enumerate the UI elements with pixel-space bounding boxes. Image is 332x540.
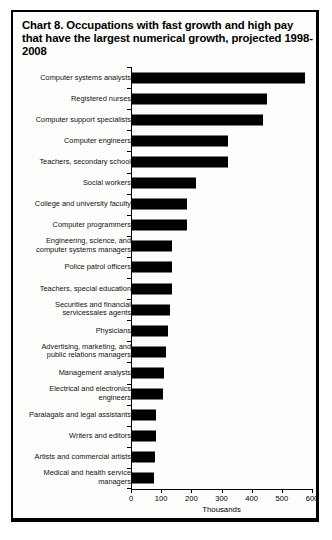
bar — [131, 241, 172, 252]
bar — [131, 473, 154, 484]
chart-title: Chart 8. Occupations with fast growth an… — [22, 19, 314, 59]
x-axis-tick — [131, 489, 132, 493]
category-label: Computer engineers — [15, 137, 131, 146]
plot-area: Computer systems analystsRegistered nurs… — [13, 67, 317, 522]
bar-row: Teachers, special education — [13, 278, 317, 299]
bar — [131, 262, 172, 273]
x-axis-tick-label: 500 — [275, 494, 288, 503]
bar-row: Artists and commercial artists — [13, 447, 317, 468]
bar — [131, 156, 228, 167]
x-axis-tick-label: 600 — [306, 494, 319, 503]
bar — [131, 304, 170, 315]
x-axis-tick — [312, 489, 313, 493]
bar-row: Physicians — [13, 320, 317, 341]
bar — [131, 178, 196, 189]
x-axis-tick — [191, 489, 192, 493]
bar-row: Management analysts — [13, 362, 317, 383]
category-label: College and university faculty — [15, 200, 131, 209]
bar-row: Computer systems analysts — [13, 67, 317, 88]
bar-row: Computer support specialists — [13, 109, 317, 130]
x-axis-tick-label: 400 — [245, 494, 258, 503]
x-axis-tick — [161, 489, 162, 493]
scanned-page: Chart 8. Occupations with fast growth an… — [0, 0, 332, 540]
chart-title-number: Chart 8. — [22, 19, 63, 31]
x-axis-tick-label: 0 — [129, 494, 133, 503]
bar-row: Writers and editors — [13, 426, 317, 447]
bar — [131, 346, 166, 357]
x-axis-title: Thousands — [131, 505, 312, 514]
category-label: Computer programmers — [15, 221, 131, 230]
bar-rows: Computer systems analystsRegistered nurs… — [13, 67, 317, 489]
y-axis-line — [131, 67, 132, 489]
x-axis-tick — [252, 489, 253, 493]
bar-row: Medical and health service managers — [13, 468, 317, 489]
bar — [131, 114, 263, 125]
bar — [131, 389, 163, 400]
bar — [131, 93, 267, 104]
chart-title-text: Occupations with fast growth and high pa… — [22, 19, 313, 57]
bar — [131, 367, 164, 378]
bar — [131, 431, 156, 442]
bar-row: Social workers — [13, 173, 317, 194]
bar — [131, 135, 228, 146]
bar-row: Securities and financial servicessales a… — [13, 299, 317, 320]
category-label: Writers and editors — [15, 432, 131, 441]
category-label: Physicians — [15, 326, 131, 335]
category-label: Police patrol officers — [15, 263, 131, 272]
x-axis-tick-label: 300 — [215, 494, 228, 503]
category-label: Teachers, special education — [15, 284, 131, 293]
bar-row: Teachers, secondary school — [13, 151, 317, 172]
bar — [131, 220, 187, 231]
category-label: Management analysts — [15, 369, 131, 378]
bar — [131, 72, 305, 83]
bar-row: Computer engineers — [13, 130, 317, 151]
category-label: Advertising, marketing, and public relat… — [15, 343, 131, 360]
x-axis-tick — [282, 489, 283, 493]
x-axis-tick-label: 100 — [155, 494, 168, 503]
category-label: Paralagals and legal assistants — [15, 411, 131, 420]
bar-row: Paralagals and legal assistants — [13, 405, 317, 426]
bar-row: College and university faculty — [13, 194, 317, 215]
x-axis-tick — [222, 489, 223, 493]
chart-frame: Chart 8. Occupations with fast growth an… — [11, 10, 319, 522]
category-label: Artists and commercial artists — [15, 453, 131, 462]
bar-row: Computer programmers — [13, 215, 317, 236]
bar-row: Electrical and electronics engineers — [13, 384, 317, 405]
bar — [131, 452, 155, 463]
bar-row: Engineering, science, and computer syste… — [13, 236, 317, 257]
category-label: Engineering, science, and computer syste… — [15, 238, 131, 255]
bar-row: Police patrol officers — [13, 257, 317, 278]
bar — [131, 283, 172, 294]
x-axis-tick-label: 200 — [185, 494, 198, 503]
bar-row: Advertising, marketing, and public relat… — [13, 341, 317, 362]
category-label: Computer systems analysts — [15, 73, 131, 82]
category-label: Medical and health service managers — [15, 470, 131, 487]
bar — [131, 199, 187, 210]
category-label: Computer support specialists — [15, 115, 131, 124]
bar-row: Registered nurses — [13, 88, 317, 109]
category-label: Electrical and electronics engineers — [15, 385, 131, 402]
category-label: Securities and financial servicessales a… — [15, 301, 131, 318]
category-label: Registered nurses — [15, 94, 131, 103]
category-label: Social workers — [15, 179, 131, 188]
category-label: Teachers, secondary school — [15, 158, 131, 167]
bar — [131, 325, 168, 336]
bar — [131, 410, 156, 421]
